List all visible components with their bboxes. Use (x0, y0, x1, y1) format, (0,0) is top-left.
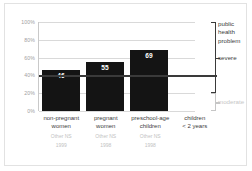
gridline-100 (39, 22, 195, 23)
category-children-under-2-years: children < 2 years (173, 114, 218, 160)
category-pregnant-women: pregnant women Other NS 1998 (84, 114, 129, 160)
scale-label-problem: problem (218, 37, 240, 45)
gridline-60 (39, 58, 195, 59)
bar-value-label: 69 (130, 52, 168, 59)
y-tick-label: 20% (24, 90, 35, 96)
category-label-line2: children (129, 122, 172, 130)
category-label-line2: women (40, 122, 83, 130)
bar-pregnant-women[interactable]: 55 (86, 62, 124, 111)
category-non-pregnant-women: non-pregnant women Other NS 1999 (39, 114, 84, 160)
gridline-80 (39, 40, 195, 41)
y-tick-label: 100% (21, 19, 35, 25)
y-tick-label: 0% (27, 108, 35, 114)
category-source-line2: 1998 (85, 142, 128, 149)
chart-frame: 100% 80% 60% 40% 20% 0% 46 55 69 non-pre… (4, 3, 247, 166)
x-axis-labels: non-pregnant women Other NS 1999 pregnan… (39, 114, 217, 160)
y-tick-label: 80% (24, 37, 35, 43)
category-source-line1: Other NS (85, 133, 128, 140)
bar-preschool-age-children[interactable]: 69 (130, 50, 168, 111)
category-label-line1: preschool-age (129, 114, 172, 122)
category-source-line2: 1999 (40, 142, 83, 149)
category-label-line1: pregnant (85, 114, 128, 122)
bar-value-label: 55 (86, 64, 124, 71)
scale-label-moderate: moderate (218, 98, 244, 106)
category-source-line2: 1998 (129, 142, 172, 149)
scale-label-health: health (218, 28, 235, 36)
category-preschool-age-children: preschool-age children Other NS 1998 (128, 114, 173, 160)
category-label-line1: children (174, 114, 217, 122)
y-axis-line (38, 22, 39, 111)
y-tick-label: 60% (24, 55, 35, 61)
reference-line-40 (39, 75, 217, 77)
scale-label-public: public (218, 20, 234, 28)
gridline-0 (39, 111, 195, 112)
category-label-line2: < 2 years (174, 122, 217, 130)
scale-label-severe: severe (218, 54, 237, 62)
y-tick-label: 40% (24, 72, 35, 78)
category-label-line1: non-pregnant (40, 114, 83, 122)
category-label-line2: women (85, 122, 128, 130)
category-source-line1: Other NS (40, 133, 83, 140)
plot-area: 100% 80% 60% 40% 20% 0% 46 55 69 (39, 22, 195, 111)
category-source-line1: Other NS (129, 133, 172, 140)
